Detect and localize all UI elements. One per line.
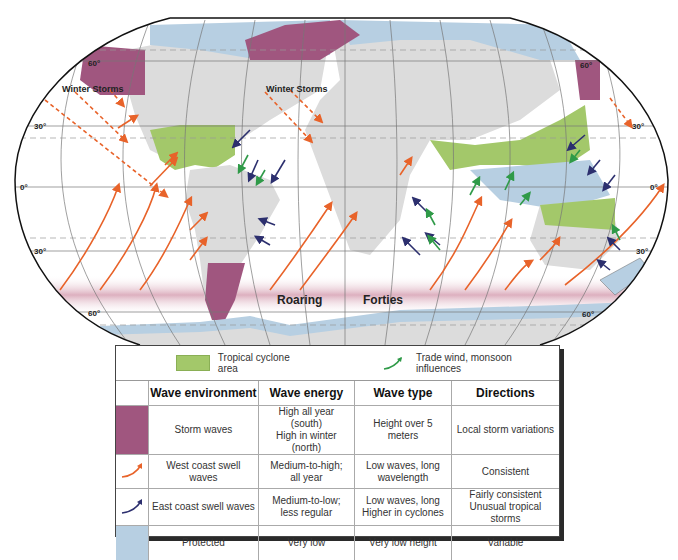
lat-30s-left: 30°: [34, 247, 46, 256]
header-swatch: [116, 381, 149, 406]
lat-0-right: 0°: [650, 183, 658, 192]
lat-30s-right: 30°: [636, 247, 648, 256]
lat-0-left: 0°: [20, 183, 28, 192]
trade-wind-label: Trade wind, monsoon influences: [416, 352, 559, 374]
winter-storms-pacific-label: Winter Storms: [62, 84, 123, 94]
cell-directions: Consistent: [451, 455, 559, 489]
lat-30n-left: 30°: [34, 122, 46, 131]
cell-directions: Variable: [451, 526, 559, 560]
lat-30n-right: 30°: [632, 122, 644, 131]
tropical-cyclone-swatch: [176, 355, 210, 371]
table-row: Storm waves High all year (south) High i…: [116, 406, 559, 455]
storm-waves-swatch: [116, 406, 149, 455]
table-row: East coast swell waves Medium-to-low; le…: [116, 489, 559, 526]
header-wave-environment: Wave environment: [149, 381, 259, 406]
cell-environment: West coast swell waves: [149, 455, 259, 489]
cell-type: Very low height: [354, 526, 451, 560]
cell-energy: Medium-to-low; less regular: [258, 489, 354, 526]
east-swell-arrow-icon: [116, 489, 149, 526]
cell-energy: Medium-to-high; all year: [258, 455, 354, 489]
west-swell-arrow-icon: [116, 455, 149, 489]
world-wave-map: Winter Storms Winter Storms Roaring Fort…: [0, 0, 678, 345]
lat-60n-left: 60°: [88, 59, 100, 68]
cell-environment: Protected: [149, 526, 259, 560]
lat-60s-left: 60°: [88, 309, 100, 318]
header-wave-type: Wave type: [354, 381, 451, 406]
cell-directions: Local storm variations: [451, 406, 559, 455]
cell-environment: East coast swell waves: [149, 489, 259, 526]
cell-energy: Very low: [258, 526, 354, 560]
legend-row: Tropical cyclone area Trade wind, monsoo…: [116, 346, 559, 381]
winter-storms-atlantic-label: Winter Storms: [266, 84, 327, 94]
cell-environment: Storm waves: [149, 406, 259, 455]
tropical-cyclone-label: Tropical cyclone area: [218, 352, 312, 374]
cell-directions: Fairly consistent Unusual tropical storm…: [451, 489, 559, 526]
cell-energy: High all year (south) High in winter (no…: [258, 406, 354, 455]
cell-type: Low waves, long wavelength: [354, 455, 451, 489]
header-directions: Directions: [451, 381, 559, 406]
forties-label: Forties: [363, 293, 403, 307]
cell-type: Height over 5 meters: [354, 406, 451, 455]
lat-60s-right: 60°: [582, 310, 594, 319]
wave-environment-table: Wave environment Wave energy Wave type D…: [116, 381, 559, 560]
legend-table-panel: Tropical cyclone area Trade wind, monsoo…: [115, 345, 560, 537]
protected-swatch: [116, 526, 149, 560]
lat-60n-right: 60°: [580, 61, 592, 70]
table-row: Protected Very low Very low height Varia…: [116, 526, 559, 560]
header-wave-energy: Wave energy: [258, 381, 354, 406]
trade-wind-arrow-icon: [382, 356, 404, 370]
roaring-label: Roaring: [277, 293, 322, 307]
cell-type: Low waves, long Higher in cyclones: [354, 489, 451, 526]
table-row: West coast swell waves Medium-to-high; a…: [116, 455, 559, 489]
